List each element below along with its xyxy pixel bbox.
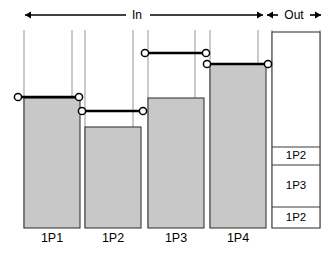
output-cell-label-0: 1P2 bbox=[286, 149, 306, 161]
bar-3-marker-left bbox=[141, 49, 148, 56]
output-column-outline bbox=[272, 32, 320, 228]
bars-group bbox=[24, 64, 266, 228]
output-cell-label-1: 1P3 bbox=[286, 179, 306, 191]
out-arrow-head-right bbox=[315, 12, 321, 19]
out-arrow-head-left bbox=[267, 12, 273, 19]
bar-3-fill bbox=[148, 98, 204, 228]
out-label: Out bbox=[284, 8, 304, 22]
bar-4-label: 1P4 bbox=[227, 231, 249, 245]
in-label: In bbox=[132, 8, 142, 22]
bar-2-marker-right bbox=[139, 107, 146, 114]
bar-3-marker-right bbox=[202, 49, 209, 56]
bar-1-marker-left bbox=[14, 93, 21, 100]
bar-4-marker-right bbox=[264, 60, 271, 67]
bar-2-marker-left bbox=[78, 107, 85, 114]
bar-3-label: 1P3 bbox=[165, 231, 187, 245]
bar-1-marker-right bbox=[75, 93, 82, 100]
in-arrow-head-right bbox=[257, 12, 263, 19]
output-column-group: 1P21P31P2 bbox=[272, 32, 320, 228]
bar-1-label: 1P1 bbox=[41, 231, 63, 245]
bar-4-marker-left bbox=[203, 60, 210, 67]
direction-header: In Out bbox=[25, 8, 321, 22]
bar-2-label: 1P2 bbox=[102, 231, 124, 245]
bar-2-fill bbox=[85, 127, 141, 228]
packing-diagram: In Out 1P21P31P2 1P11P21P31P4 bbox=[0, 0, 333, 256]
output-cell-label-2: 1P2 bbox=[286, 211, 306, 223]
diagram-canvas: In Out 1P21P31P2 1P11P21P31P4 bbox=[0, 0, 333, 256]
bar-labels-group: 1P11P21P31P4 bbox=[41, 231, 249, 245]
in-arrow-head-left bbox=[25, 12, 31, 19]
in-arrow-group bbox=[25, 12, 263, 19]
bar-4-fill bbox=[210, 64, 266, 228]
bar-1-fill bbox=[24, 98, 80, 228]
